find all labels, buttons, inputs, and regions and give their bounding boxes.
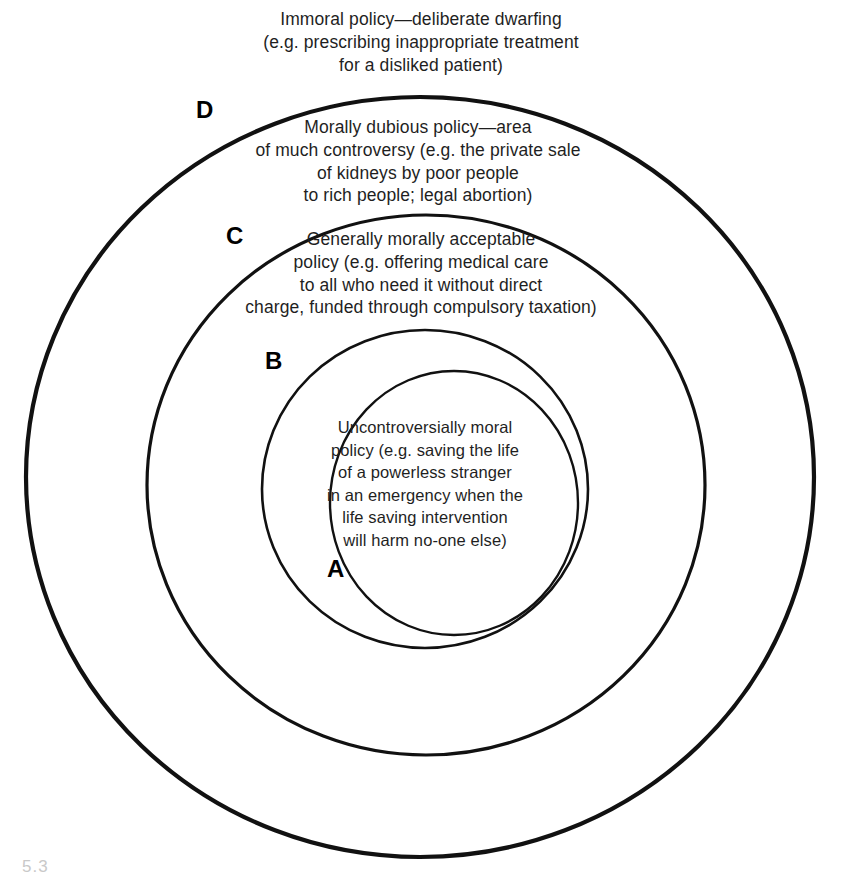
zone-a-letter: A [327, 555, 345, 583]
caption-stub: 5.3 [22, 857, 49, 877]
zone-b-text: Generally morally acceptable policy (e.g… [211, 228, 631, 319]
zone-b-letter: B [265, 347, 283, 375]
figure-concentric-moral-policy-diagram: Immoral policy—deliberate dwarfing (e.g.… [0, 0, 843, 881]
zone-d-text: Immoral policy—deliberate dwarfing (e.g.… [181, 8, 661, 76]
zone-a-text: Uncontroversially moral policy (e.g. sav… [289, 416, 561, 552]
zone-c-text: Morally dubious policy—area of much cont… [183, 116, 653, 207]
